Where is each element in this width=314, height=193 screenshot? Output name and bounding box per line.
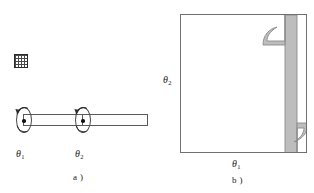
y-axis-subscript: 2 bbox=[168, 79, 171, 86]
panel-a-manipulator: θ1 θ2 a ) bbox=[0, 0, 160, 193]
c-obstacle-band bbox=[285, 15, 297, 153]
panel-b-configuration-space: θ2 θ1 b ) bbox=[160, 0, 314, 193]
joint-1-angle-subscript: 1 bbox=[21, 153, 24, 160]
joint-2 bbox=[73, 103, 93, 137]
y-axis-label: θ2 bbox=[163, 74, 171, 85]
x-axis-subscript: 1 bbox=[237, 163, 240, 170]
joint-1 bbox=[14, 103, 34, 137]
joint-2-angle-label: θ2 bbox=[75, 148, 83, 159]
panel-a-caption: a ) bbox=[73, 172, 83, 182]
configuration-space-plot-area bbox=[180, 14, 307, 153]
figure-root: θ1 θ2 a ) θ2 θ1 b ) bbox=[0, 0, 314, 193]
x-axis-label: θ1 bbox=[232, 158, 240, 169]
joint-1-center-dot bbox=[22, 119, 26, 123]
hatched-square-obstacle-icon bbox=[14, 54, 28, 68]
joint-2-center-dot bbox=[81, 119, 85, 123]
panel-b-caption: b ) bbox=[232, 175, 243, 185]
c-obstacle-top-hook bbox=[263, 15, 285, 45]
joint-1-angle-label: θ1 bbox=[16, 148, 24, 159]
configuration-space-obstacle-region bbox=[181, 15, 307, 153]
joint-2-angle-subscript: 2 bbox=[80, 153, 83, 160]
